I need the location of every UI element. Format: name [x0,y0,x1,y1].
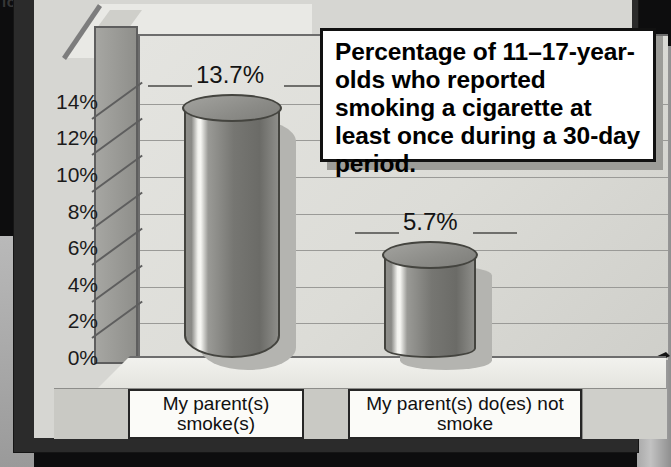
slab-gridline-projection [91,228,142,266]
y-tick-label: 14% [54,91,98,112]
bar-cylinder [184,107,280,358]
category-label-row: My parent(s) smoke(s)My parent(s) do(es)… [54,388,666,439]
slab-gridline-projection [91,191,142,229]
bar-body [184,107,280,358]
bar-body [384,254,476,358]
category-label-box: My parent(s) smoke(s) [128,389,304,439]
category-row-filler-left [54,389,128,439]
y-axis-tick-labels: 0%2%4%6%8%10%12%14% [54,0,98,438]
y-tick-label: 12% [54,127,98,148]
value-label-rule-left [148,85,192,87]
chart-plot-frame: 0%2%4%6%8%10%12%14% 13.7%5.7% Percentage… [34,0,632,438]
bar-value-label: 5.7% [403,208,458,236]
bar-value-label: 13.7% [196,61,264,89]
plot-floor [96,356,666,392]
y-tick-label: 4% [54,274,98,295]
chart-figure: 0%2%4%6%8%10%12%14% 13.7%5.7% Percentage… [14,0,638,452]
y-axis-slab [94,26,138,364]
slab-gridline-projection [91,265,142,303]
value-label-rule-left [355,232,399,234]
bar-top-ellipse [382,241,478,269]
y-tick-label: 8% [54,201,98,222]
y-tick-label: 0% [54,347,98,368]
y-tick-label: 10% [54,164,98,185]
y-tick-label: 6% [54,237,98,258]
category-label-text: My parent(s) smoke(s) [130,394,302,434]
slab-gridline-projection [91,301,142,339]
category-label-box: My parent(s) do(es) not smoke [348,389,582,439]
slab-gridline-projection [91,82,142,120]
slab-gridline-projection [91,155,142,193]
category-label-text: My parent(s) do(es) not smoke [350,394,580,434]
y-tick-label: 2% [54,310,98,331]
value-label-rule-right [473,232,517,234]
bar-cylinder [384,254,476,358]
slab-gridline-projection [91,118,142,156]
category-row-filler-right [582,389,667,439]
chart-title-callout: Percentage of 11–17-year-olds who report… [320,28,656,162]
